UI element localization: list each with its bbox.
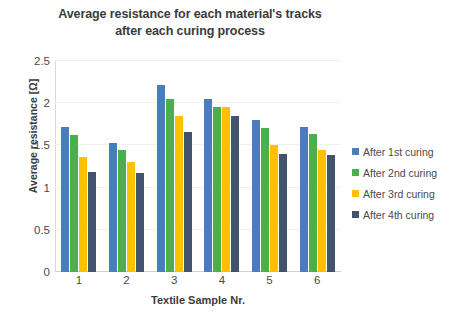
bar-group <box>55 61 103 272</box>
y-tick-label: 2 <box>16 97 50 109</box>
x-axis-tick-labels: 123456 <box>55 274 341 292</box>
bar[interactable] <box>88 172 96 272</box>
chart-legend: After 1st curingAfter 2nd curingAfter 3r… <box>352 141 474 225</box>
legend-item[interactable]: After 4th curing <box>352 204 474 225</box>
legend-swatch-icon <box>352 190 359 197</box>
bar[interactable] <box>252 120 260 272</box>
bar[interactable] <box>166 99 174 272</box>
bar[interactable] <box>79 157 87 272</box>
bar[interactable] <box>61 127 69 272</box>
bar[interactable] <box>109 143 117 272</box>
bar[interactable] <box>70 135 78 272</box>
bar[interactable] <box>327 155 335 272</box>
chart-title: Average resistance for each material's t… <box>40 6 340 40</box>
legend-label: After 3rd curing <box>363 188 435 200</box>
legend-label: After 2nd curing <box>363 167 437 179</box>
bar[interactable] <box>309 134 317 272</box>
legend-item[interactable]: After 3rd curing <box>352 183 474 204</box>
bar-group <box>246 61 294 272</box>
y-tick-label: 2.5 <box>16 55 50 67</box>
bar[interactable] <box>213 107 221 272</box>
y-tick-label: 0 <box>16 266 50 278</box>
bar[interactable] <box>270 145 278 272</box>
bar[interactable] <box>261 128 269 272</box>
y-axis-tick-labels: 00.511.522.5 <box>12 0 50 320</box>
bar[interactable] <box>300 127 308 272</box>
bar[interactable] <box>279 154 287 272</box>
bar-chart: Average resistance for each material's t… <box>0 0 474 320</box>
bar[interactable] <box>204 99 212 272</box>
x-tick-label: 6 <box>297 274 337 286</box>
bar[interactable] <box>118 150 126 272</box>
bar-group <box>103 61 151 272</box>
chart-title-line-1: Average resistance for each material's t… <box>40 6 340 23</box>
legend-label: After 4th curing <box>363 209 434 221</box>
y-tick-label: 0.5 <box>16 224 50 236</box>
legend-label: After 1st curing <box>363 146 434 158</box>
bar[interactable] <box>222 107 230 272</box>
legend-swatch-icon <box>352 211 359 218</box>
bar[interactable] <box>175 116 183 272</box>
bar[interactable] <box>184 132 192 272</box>
legend-item[interactable]: After 2nd curing <box>352 162 474 183</box>
x-tick-label: 5 <box>250 274 290 286</box>
bar[interactable] <box>318 150 326 272</box>
x-tick-label: 2 <box>107 274 147 286</box>
legend-item[interactable]: After 1st curing <box>352 141 474 162</box>
x-axis-title: Textile Sample Nr. <box>55 294 341 306</box>
bar-group <box>150 61 198 272</box>
y-tick-label: 1.5 <box>16 139 50 151</box>
legend-swatch-icon <box>352 148 359 155</box>
bar[interactable] <box>136 173 144 272</box>
x-tick-label: 4 <box>202 274 242 286</box>
bar[interactable] <box>127 162 135 272</box>
x-tick-label: 3 <box>154 274 194 286</box>
chart-title-line-2: after each curing process <box>40 23 340 40</box>
plot-area <box>55 61 341 272</box>
bar[interactable] <box>231 116 239 272</box>
legend-swatch-icon <box>352 169 359 176</box>
bar[interactable] <box>157 85 165 272</box>
x-tick-label: 1 <box>59 274 99 286</box>
bar-group <box>198 61 246 272</box>
bar-group <box>293 61 341 272</box>
y-tick-label: 1 <box>16 182 50 194</box>
